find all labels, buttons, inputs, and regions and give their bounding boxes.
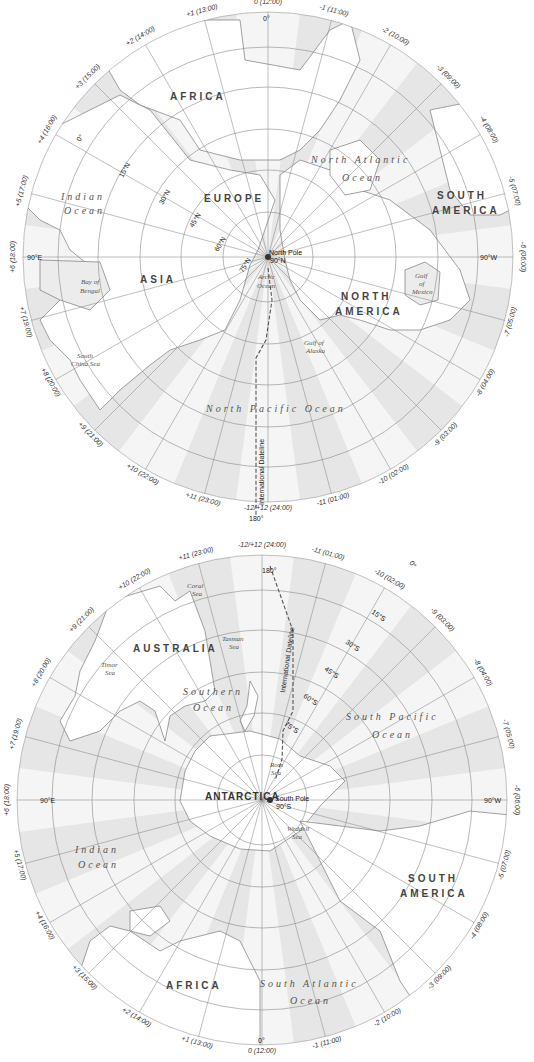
extra-zero-label: 0°	[408, 560, 418, 570]
gulf-of-alaska-label-2: Alaska	[305, 347, 326, 355]
ross-sea-label-2: Sea	[271, 769, 282, 777]
dateline-label: International Dateline	[258, 439, 265, 505]
indian-ocean-label-1: Indian	[60, 191, 105, 202]
south-atlantic-label-2: Ocean	[290, 995, 331, 1006]
north-america-label-1: NORTH	[341, 291, 392, 302]
ross-sea-label-1: Ross	[269, 761, 284, 769]
timezone-label: +11 (23:00)	[178, 545, 214, 562]
timezone-label: +6 (18:00)	[9, 241, 17, 273]
timezone-label: -7 (05:00)	[501, 718, 517, 749]
south-america-label-2: AMERICA	[400, 888, 468, 899]
africa-label: AFRICA	[170, 91, 226, 102]
north-atlantic-label-2: Ocean	[342, 172, 383, 183]
north-map-canvas: 0 (12:00)-1 (11:00)-2 (10:00)-3 (09:00)-…	[0, 0, 534, 531]
timezone-label: -6 (06:00)	[513, 785, 521, 815]
south-pacific-label-1: South Pacific	[346, 711, 439, 722]
southern-ocean-label-2: Ocean	[193, 702, 234, 713]
tasman-sea-label-1: Tasman	[222, 635, 244, 643]
weddell-sea-label-1: Weddell	[287, 825, 309, 833]
south-polar-map: -12/+12 (24:00)-11 (01:00)-10 (02:00)-9 …	[0, 531, 534, 1062]
north-polar-map: 0 (12:00)-1 (11:00)-2 (10:00)-3 (09:00)-…	[0, 0, 534, 531]
arctic-ocean-label-2: Ocean	[257, 282, 276, 290]
indian-ocean-label-2: Ocean	[64, 205, 105, 216]
meridian-90w-label: 90°W	[484, 797, 502, 804]
south-atlantic-label-1: South Atlantic	[260, 978, 359, 989]
meridian-90e-label: 90°E	[40, 797, 56, 804]
timezone-label: +6 (18:00)	[3, 784, 11, 816]
timezone-label: 0 (12:00)	[248, 1047, 276, 1055]
gulf-of-mexico-label-1: Gulf	[415, 272, 429, 280]
meridian-180-label: 180°	[262, 567, 277, 574]
arctic-ocean-label-1: Arctic	[257, 273, 276, 281]
timezone-label: -6 (06:00)	[519, 242, 527, 272]
north-atlantic-label-1: North Atlantic	[310, 154, 410, 165]
weddell-sea-label-2: Sea	[292, 833, 303, 841]
asia-label: ASIA	[140, 274, 176, 285]
timezone-label: -5 (07:00)	[507, 175, 523, 206]
south-pacific-label-2: Ocean	[372, 729, 413, 740]
timezone-label: -12/+12 (24:00)	[244, 504, 292, 512]
meridian-0-label: 0°	[263, 15, 270, 22]
north-pacific-label: North Pacific Ocean	[205, 403, 346, 414]
south-america-label-1: SOUTH	[437, 190, 487, 201]
meridian-180-label: 180°	[249, 515, 264, 522]
meridian-90w-label: 90°W	[480, 254, 498, 261]
meridian-0-label: 0°	[258, 1037, 265, 1044]
gulf-of-alaska-label-1: Gulf of	[304, 339, 325, 347]
timezone-label: -11 (01:00)	[311, 545, 346, 561]
south-america-label-2: AMERICA	[432, 205, 500, 216]
timezone-label: 0 (12:00)	[254, 0, 282, 6]
bay-of-bengal-label-2: Bengal	[80, 287, 100, 295]
timor-sea-label-2: Sea	[105, 669, 116, 677]
antarctica-label: ANTARCTICA	[205, 791, 280, 802]
south-america-label-1: SOUTH	[408, 873, 458, 884]
africa-label: AFRICA	[166, 980, 222, 991]
south-china-sea-label-1: South	[77, 352, 93, 360]
timezone-label: +1 (13:00)	[185, 3, 218, 19]
south-map-canvas: -12/+12 (24:00)-11 (01:00)-10 (02:00)-9 …	[0, 531, 534, 1062]
timor-sea-label-1: Timor	[101, 661, 118, 669]
south-pole-label: South Pole	[275, 795, 309, 802]
timezone-label: -12/+12 (24:00)	[238, 541, 286, 549]
gulf-of-mexico-label-3: Mexico	[411, 288, 433, 296]
north-america-label-2: AMERICA	[335, 306, 403, 317]
south-china-sea-label-2: China Sea	[71, 360, 100, 368]
tasman-sea-label-2: Sea	[229, 643, 240, 651]
timezone-label: +7 (19:00)	[8, 717, 24, 750]
south-pole-degree: 90°S	[276, 803, 292, 810]
europe-label: EUROPE	[204, 193, 264, 204]
coral-sea-label-2: Sea	[192, 590, 203, 598]
indian-ocean-label-1: Indian	[74, 844, 119, 855]
north-pole-degree: 90°N	[270, 257, 286, 264]
coral-sea-label-1: Coral	[187, 582, 203, 590]
timezone-label: -1 (11:00)	[319, 3, 350, 18]
north-pole-label: North Pole	[269, 249, 302, 256]
bay-of-bengal-label-1: Bay of	[81, 278, 100, 286]
indian-ocean-label-2: Ocean	[78, 859, 119, 870]
australia-label: AUSTRALIA	[133, 643, 218, 654]
timezone-label: +5 (17:00)	[14, 174, 30, 207]
southern-ocean-label-1: Southern	[183, 686, 243, 697]
meridian-90e-label: 90°E	[27, 254, 43, 261]
